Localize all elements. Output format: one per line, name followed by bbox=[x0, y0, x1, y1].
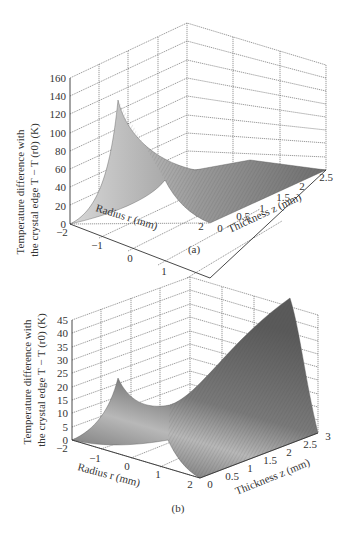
plot-b-xlabel: Radius r (mm) bbox=[76, 460, 142, 489]
svg-text:3: 3 bbox=[325, 430, 331, 442]
svg-text:45: 45 bbox=[57, 314, 69, 326]
svg-text:80: 80 bbox=[55, 145, 67, 157]
svg-text:0.5: 0.5 bbox=[225, 470, 239, 482]
svg-text:30: 30 bbox=[57, 354, 69, 366]
svg-text:15: 15 bbox=[57, 394, 69, 406]
svg-text:2.5: 2.5 bbox=[319, 171, 333, 183]
svg-text:35: 35 bbox=[57, 341, 69, 353]
svg-text:20: 20 bbox=[57, 381, 69, 393]
plot-a-z-ticks: 0 20 40 60 80 100 120 140 160 bbox=[50, 72, 67, 230]
svg-text:5: 5 bbox=[63, 421, 69, 433]
svg-text:100: 100 bbox=[50, 127, 67, 139]
svg-text:2: 2 bbox=[286, 446, 292, 458]
svg-text:2.5: 2.5 bbox=[303, 438, 317, 450]
svg-text:20: 20 bbox=[55, 200, 67, 212]
plot-b-z-ticks: 0 5 10 15 20 25 30 35 40 45 bbox=[57, 314, 69, 446]
figure-canvas: 0 20 40 60 80 100 120 140 160 −2 −1 0 1 … bbox=[0, 0, 349, 534]
svg-text:140: 140 bbox=[50, 90, 67, 102]
plot-b-zlabel-line2: the crystal edge T − T (r0) (K) bbox=[35, 313, 48, 447]
plot-a-caption: (a) bbox=[188, 243, 201, 256]
svg-text:25: 25 bbox=[57, 367, 69, 379]
svg-text:40: 40 bbox=[57, 327, 69, 339]
plot-b-caption: (b) bbox=[172, 502, 185, 515]
plot-a-x-ticks: −2 −1 0 1 2 bbox=[56, 220, 204, 277]
svg-text:2: 2 bbox=[198, 220, 204, 232]
svg-text:0: 0 bbox=[124, 460, 130, 472]
svg-text:1: 1 bbox=[161, 265, 167, 277]
svg-text:120: 120 bbox=[50, 108, 67, 120]
svg-text:−1: −1 bbox=[89, 452, 101, 464]
svg-text:160: 160 bbox=[50, 72, 67, 84]
svg-text:2: 2 bbox=[187, 478, 193, 490]
plot-a-zlabel-line2: the crystal edge T − T (r0) (K) bbox=[28, 123, 41, 257]
plot-b-zlabel-line1: Temperature difference with bbox=[21, 319, 33, 444]
svg-text:10: 10 bbox=[57, 407, 69, 419]
svg-text:2: 2 bbox=[299, 180, 305, 192]
plot-b: 0 5 10 15 20 25 30 35 40 45 −2 −1 0 1 2 … bbox=[21, 277, 331, 515]
svg-text:0: 0 bbox=[217, 222, 223, 234]
svg-text:40: 40 bbox=[55, 181, 67, 193]
plot-a: 0 20 40 60 80 100 120 140 160 −2 −1 0 1 … bbox=[14, 23, 333, 278]
svg-text:−1: −1 bbox=[91, 239, 103, 251]
plot-a-grid bbox=[70, 23, 326, 278]
svg-text:0: 0 bbox=[207, 478, 213, 490]
svg-text:0: 0 bbox=[127, 252, 133, 264]
svg-text:1: 1 bbox=[247, 462, 253, 474]
plot-a-zlabel-line1: Temperature difference with bbox=[14, 129, 26, 254]
svg-text:1: 1 bbox=[155, 468, 161, 480]
svg-text:−2: −2 bbox=[56, 442, 68, 454]
svg-text:−2: −2 bbox=[56, 226, 68, 238]
svg-text:60: 60 bbox=[55, 163, 67, 175]
svg-text:1.5: 1.5 bbox=[263, 454, 277, 466]
